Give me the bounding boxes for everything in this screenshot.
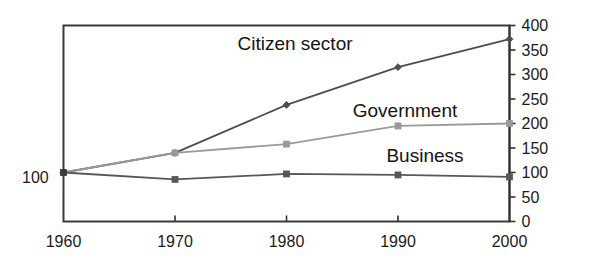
y-tick-label: 250 <box>522 91 549 108</box>
y-tick-label: 0 <box>522 213 531 230</box>
y-tick-label: 50 <box>522 189 540 206</box>
data-point-marker <box>395 123 401 129</box>
data-point-marker <box>172 176 178 182</box>
chart-container: 19601970198019902000 0501001502002503003… <box>0 0 596 272</box>
y-tick-label: 350 <box>522 42 549 59</box>
data-point-marker <box>507 174 513 180</box>
y-tick-label: 150 <box>522 140 549 157</box>
y-tick-label: 300 <box>522 66 549 83</box>
origin-marker <box>60 169 67 176</box>
y-tick-label: 100 <box>522 164 549 181</box>
x-tick-label: 2000 <box>492 233 528 250</box>
series-inline-label: Government <box>353 100 458 121</box>
data-point-marker <box>172 150 178 156</box>
data-point-marker <box>284 141 290 147</box>
y-tick-label: 200 <box>522 115 549 132</box>
baseline-value-label: 100 <box>22 169 49 186</box>
x-tick-label: 1970 <box>157 233 193 250</box>
y-tick-label: 400 <box>522 17 549 34</box>
series-inline-label: Citizen sector <box>237 33 353 54</box>
x-tick-label: 1980 <box>269 233 305 250</box>
line-chart: 19601970198019902000 0501001502002503003… <box>0 0 596 272</box>
x-tick-label: 1990 <box>380 233 416 250</box>
data-point-marker <box>284 171 290 177</box>
x-tick-label: 1960 <box>46 233 82 250</box>
data-point-marker <box>507 121 513 127</box>
series-inline-label: Business <box>386 145 463 166</box>
data-point-marker <box>395 172 401 178</box>
